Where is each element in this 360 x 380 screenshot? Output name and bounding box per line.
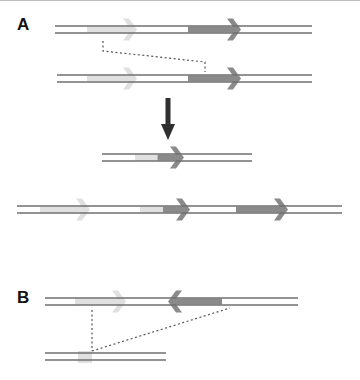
gene-bar: [135, 155, 158, 161]
gene-bar: [172, 299, 222, 305]
down-arrow-icon: [161, 124, 175, 140]
dotted-connector: [92, 308, 230, 351]
gene-bar: [188, 76, 237, 82]
gene-bar: [188, 27, 237, 33]
down-arrow-shaft: [166, 98, 171, 126]
gene-bar: [75, 299, 122, 305]
gene-bar: [40, 207, 86, 213]
gene-bar: [236, 207, 284, 213]
gene-bar: [140, 207, 163, 213]
gene-bar: [87, 76, 133, 82]
gene-bar: [87, 27, 133, 33]
recombination-diagram: [0, 0, 360, 380]
dotted-connector: [103, 41, 205, 72]
